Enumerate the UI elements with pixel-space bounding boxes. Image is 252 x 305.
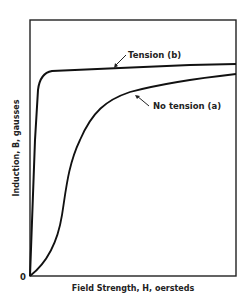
curve-tension-b bbox=[30, 64, 236, 276]
leader-tension-b bbox=[115, 55, 126, 66]
annotation-no-tension-a: No tension (a) bbox=[153, 101, 221, 111]
annotation-tension-b: Tension (b) bbox=[128, 50, 181, 60]
origin-label: 0 bbox=[20, 272, 26, 282]
leader-no-tension-a bbox=[137, 96, 149, 106]
x-axis-label: Field Strength, H, oersteds bbox=[72, 284, 195, 293]
y-axis-label: Induction, B, gausses bbox=[12, 99, 21, 196]
bh-curve-chart: Tension (b) No tension (a) 0 Field Stren… bbox=[0, 0, 252, 305]
